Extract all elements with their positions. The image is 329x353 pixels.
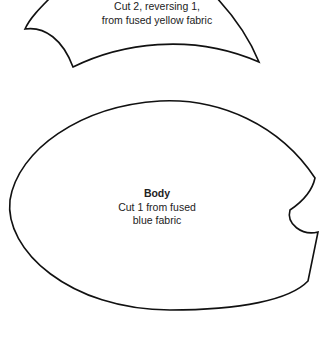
body-instruction-line-1: Cut 1 from fused [118,201,196,215]
wing-instruction-line-2: from fused yellow fabric [102,14,212,28]
pattern-canvas: Cut 2, reversing 1, from fused yellow fa… [0,0,329,353]
body-piece-label: Body Cut 1 from fused blue fabric [118,187,196,228]
body-piece-title: Body [118,187,196,201]
wing-instruction-line-1: Cut 2, reversing 1, [102,0,212,14]
wing-piece-label: Cut 2, reversing 1, from fused yellow fa… [102,0,212,27]
pattern-outlines [0,0,329,353]
body-instruction-line-2: blue fabric [118,214,196,228]
